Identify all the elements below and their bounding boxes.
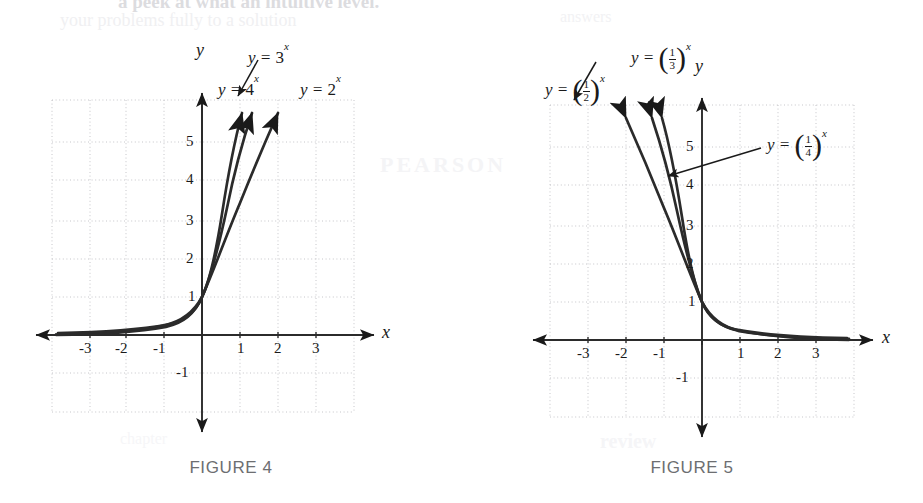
figure-5-label-one-third-pow-x: y = (13)x	[631, 44, 691, 74]
label-lhs: y =	[300, 80, 323, 99]
figure-4-label-3-pow-x: y = 3x	[248, 47, 289, 66]
figure-4-label-2-pow-x: y = 2x	[300, 79, 341, 98]
figure-4-ytick--1: -1	[176, 364, 189, 381]
figure-4-y-axis-label: y	[196, 40, 204, 61]
fraction-numerator: 1	[669, 47, 677, 58]
figure-4-xtick-1: 1	[237, 340, 245, 357]
figure-4-xtick-2: 2	[274, 340, 282, 357]
figure-5-xtick-3: 3	[812, 345, 820, 362]
axes	[36, 93, 374, 432]
paren-open: (	[573, 75, 583, 105]
label-exponent: x	[822, 127, 827, 139]
figure-5-ytick-4: 4	[686, 176, 694, 193]
leader-line-one-fourth-pow-x	[668, 148, 761, 176]
fraction: 14	[805, 134, 813, 157]
figure-5-ytick-2: 2	[686, 255, 694, 272]
paren-open: (	[795, 130, 805, 160]
label-lhs: y =	[545, 80, 568, 99]
figure-5: y x -3 -2 -1 1 2 3 5 4 3 2 1 -1 y = (12)…	[461, 0, 923, 503]
figure-4-ytick-5: 5	[186, 133, 194, 150]
figure-5-xtick--3: -3	[577, 345, 590, 362]
fraction-denominator: 3	[669, 59, 677, 71]
label-exponent: x	[336, 72, 341, 84]
figure-5-xtick--2: -2	[615, 345, 628, 362]
textbook-figure-page: a peek at what an intuitive level. your …	[0, 0, 923, 503]
figure-5-xtick-1: 1	[737, 345, 745, 362]
label-exponent: x	[254, 72, 259, 84]
fraction-denominator: 2	[583, 91, 591, 103]
figure-5-ytick-5: 5	[686, 138, 694, 155]
fraction: 13	[669, 47, 677, 70]
label-base: 3	[276, 48, 285, 67]
figure-4-xtick--3: -3	[79, 340, 92, 357]
fraction-denominator: 4	[805, 146, 813, 158]
label-base: 4	[246, 80, 255, 99]
figure-4-ytick-2: 2	[186, 250, 194, 267]
figure-5-label-one-fourth-pow-x: y = (14)x	[767, 131, 827, 161]
figure-4-ytick-3: 3	[186, 212, 194, 229]
paren-close: )	[812, 130, 822, 160]
figure-4-label-4-pow-x: y = 4x	[218, 79, 259, 98]
label-exponent: x	[686, 40, 691, 52]
label-lhs: y =	[631, 48, 654, 67]
curve-3-pow-x	[56, 113, 252, 335]
figure-4-ytick-4: 4	[186, 171, 194, 188]
paren-open: (	[659, 43, 669, 73]
curve-2-pow-x	[58, 113, 278, 333]
label-base: 2	[328, 80, 337, 99]
label-exponent: x	[600, 72, 605, 84]
figure-4-xtick--2: -2	[115, 340, 128, 357]
figure-5-ytick-1: 1	[688, 293, 696, 310]
fraction: 12	[583, 79, 591, 102]
figure-4-xtick-3: 3	[312, 340, 320, 357]
figure-4-x-axis-label: x	[382, 322, 390, 343]
figure-5-xtick-2: 2	[774, 345, 782, 362]
figure-4-xtick--1: -1	[153, 340, 166, 357]
figure-5-ytick-3: 3	[686, 217, 694, 234]
figure-5-label-one-half-pow-x: y = (12)x	[545, 76, 605, 106]
grid-lines	[52, 100, 354, 412]
figure-5-xtick--1: -1	[653, 345, 666, 362]
fraction-numerator: 1	[805, 134, 813, 145]
figure-4: y x -3 -2 -1 1 2 3 5 4 3 2 1 -1 y = 4x y…	[0, 0, 462, 503]
label-exponent: x	[284, 40, 289, 52]
curve-4-pow-x	[56, 113, 242, 335]
label-lhs: y =	[218, 80, 241, 99]
figure-5-caption: FIGURE 5	[461, 458, 923, 478]
figure-4-caption: FIGURE 4	[0, 458, 462, 478]
label-lhs: y =	[767, 135, 790, 154]
figure-5-y-axis-label: y	[695, 56, 703, 77]
figure-4-plot	[0, 0, 462, 445]
figure-5-ytick--1: -1	[676, 369, 689, 386]
figure-4-ytick-1: 1	[188, 288, 196, 305]
paren-close: )	[676, 43, 686, 73]
label-lhs: y =	[248, 48, 271, 67]
paren-close: )	[590, 75, 600, 105]
figure-5-x-axis-label: x	[882, 327, 890, 348]
exponential-curves	[56, 113, 278, 335]
fraction-numerator: 1	[583, 79, 591, 90]
